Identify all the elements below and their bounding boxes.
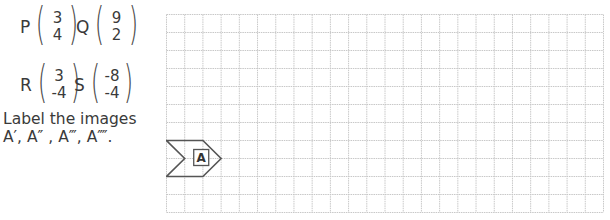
vector-name: S	[74, 75, 85, 95]
right-paren: )	[124, 60, 133, 104]
column-vector: 9 2	[109, 10, 125, 44]
vector-s: S ( -8 -4 )	[74, 66, 137, 104]
vector-y: 4	[53, 27, 63, 44]
vector-y: 2	[112, 27, 122, 44]
vector-name: P	[20, 17, 30, 37]
square-grid: A	[166, 14, 606, 214]
column-vector: -8 -4	[104, 68, 120, 102]
vector-x: 3	[54, 68, 64, 85]
vector-y: -4	[52, 85, 67, 102]
vector-y: -4	[104, 85, 119, 102]
grid-canvas: A	[166, 14, 606, 214]
left-paren: (	[95, 2, 104, 46]
vector-name: R	[20, 75, 32, 95]
column-vector: 3 -4	[51, 68, 67, 102]
vector-x: -8	[104, 68, 119, 85]
left-paren: (	[91, 60, 100, 104]
vector-q: Q ( 9 2 )	[76, 8, 142, 46]
vector-name: Q	[76, 17, 89, 37]
left-paren: (	[38, 60, 47, 104]
vector-p: P ( 3 4 )	[20, 8, 83, 46]
instruction-line-1: Label the images	[3, 110, 136, 128]
column-vector: 3 4	[49, 10, 65, 44]
vector-x: 9	[112, 10, 122, 27]
right-paren: )	[128, 2, 137, 46]
instruction-text: Label the images A′, A″ , A‴, A⁗.	[3, 110, 136, 146]
shape-label: A	[197, 151, 207, 165]
left-paren: (	[36, 2, 45, 46]
instruction-line-2: A′, A″ , A‴, A⁗.	[3, 128, 136, 146]
vector-x: 3	[53, 10, 63, 27]
